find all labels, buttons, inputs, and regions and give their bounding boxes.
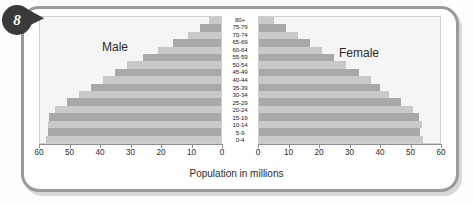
bar-row [40,32,221,39]
bar-row [40,113,221,120]
bar [259,98,401,105]
bar-row [259,121,440,128]
bar [103,76,221,83]
bar [48,121,221,128]
bar-row [40,24,221,31]
bar [209,17,221,24]
bar [259,24,286,31]
bar [188,32,221,39]
bar [259,61,346,68]
female-label: Female [339,46,379,60]
axis-tick-label: 50 [65,148,74,157]
bar [259,54,334,61]
bar [143,54,221,61]
bar-row [40,136,221,143]
male-bar-rows [40,17,221,143]
age-group-axis: 80+75-7970-7465-6960-6455-5950-5445-4940… [223,16,257,144]
axis-tick-label: 10 [284,148,293,157]
bar-row [40,128,221,135]
axis-tick-label: 0 [256,148,261,157]
bar-row [40,54,221,61]
bar-row [40,61,221,68]
axis-tick-label: 30 [126,148,135,157]
screenshot-root: 8 80+75-7970-7465-6960-6455-5950-5445-49… [0,0,473,203]
bar [259,47,322,54]
bar-row [40,91,221,98]
bar [79,91,221,98]
bar [259,106,413,113]
bar-row [259,113,440,120]
bar-row [259,61,440,68]
bar-row [259,136,440,143]
age-group-label: 30-34 [223,91,257,99]
female-panel [258,16,441,144]
bar-row [40,17,221,24]
bar-row [40,76,221,83]
bar [127,61,221,68]
axis-tick-label: 0 [220,148,225,157]
axis-tick-label: 50 [406,148,415,157]
age-group-label: 20-24 [223,106,257,114]
male-value-axis: 6050403020100 [39,144,222,161]
bar [259,76,371,83]
bar [67,98,221,105]
bar [46,136,221,143]
bar-row [259,84,440,91]
population-pyramid-chart: 80+75-7970-7465-6960-6455-5950-5445-4940… [39,16,441,161]
age-group-label: 10-14 [223,121,257,129]
bar-row [259,17,440,24]
bar [259,84,380,91]
axis-tick-label: 20 [156,148,165,157]
age-group-label: 75-79 [223,24,257,32]
bar [259,91,389,98]
axis-tick-label: 10 [187,148,196,157]
bar-row [259,24,440,31]
bar [259,39,310,46]
age-group-label: 0-4 [223,137,257,145]
age-group-label: 65-69 [223,39,257,47]
bar-row [259,76,440,83]
bar-row [40,106,221,113]
axis-tick-label: 40 [375,148,384,157]
male-label: Male [102,40,128,54]
bar [158,47,221,54]
bar-row [40,69,221,76]
age-group-label: 40-44 [223,76,257,84]
bar-row [259,32,440,39]
bar [259,121,422,128]
bar-row [40,47,221,54]
axis-tick-label: 40 [95,148,104,157]
bar [259,113,419,120]
female-bar-rows [259,17,440,143]
axis-tick-label: 60 [34,148,43,157]
male-panel [39,16,222,144]
figure-number-badge: 8 [0,2,52,46]
bar-row [40,39,221,46]
bar [48,128,221,135]
bar-row [259,98,440,105]
bar [91,84,221,91]
axis-tick-label: 20 [314,148,323,157]
bar [259,69,359,76]
bar [200,24,221,31]
bar [259,32,298,39]
bar-row [259,69,440,76]
bar-row [40,84,221,91]
bar-row [259,106,440,113]
axis-tick-label: 30 [345,148,354,157]
bar-row [259,91,440,98]
chart-caption: Population in millions [0,168,473,179]
bar [259,136,423,143]
bar-row [40,121,221,128]
bar-row [259,128,440,135]
bar [173,39,221,46]
badge-number: 8 [2,5,32,35]
female-value-axis: 0102030405060 [258,144,441,161]
bar [115,69,221,76]
bar-row [40,98,221,105]
bar [55,106,221,113]
bar [49,113,221,120]
bar [259,17,274,24]
axis-tick-label: 60 [436,148,445,157]
bar [259,128,420,135]
